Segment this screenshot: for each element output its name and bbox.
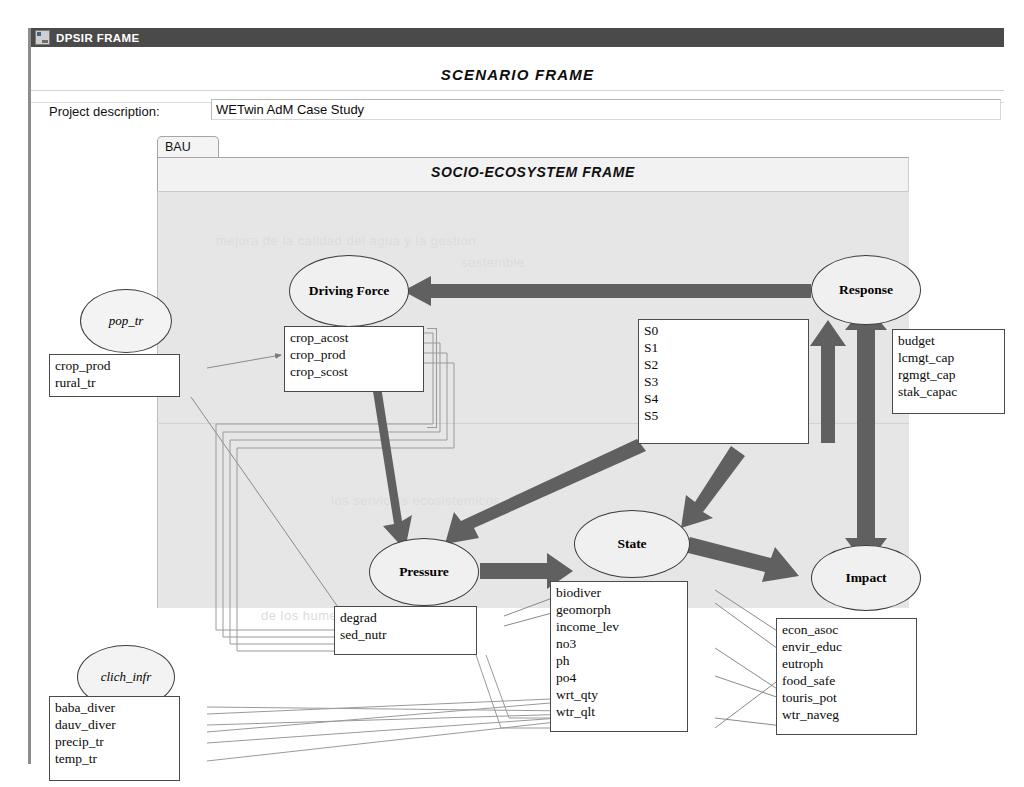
varbox-item[interactable]: po4 <box>556 669 687 686</box>
scenario-frame-title: SCENARIO FRAME <box>31 66 1004 83</box>
node-driving-force[interactable]: Driving Force <box>289 255 409 327</box>
node-pop-tr[interactable]: pop_tr <box>80 289 172 353</box>
varbox-item[interactable]: eutroph <box>782 655 916 672</box>
varbox-item[interactable]: stak_capac <box>898 383 1004 400</box>
varbox-item[interactable]: wtr_qlt <box>556 703 687 720</box>
project-description-label: Project description: <box>49 104 160 119</box>
varbox-item[interactable]: S4 <box>644 390 808 407</box>
varbox-item[interactable]: S3 <box>644 373 808 390</box>
varbox-item[interactable]: degrad <box>340 609 476 626</box>
varbox-item[interactable]: no3 <box>556 635 687 652</box>
varbox-item[interactable]: budget <box>898 332 1004 349</box>
varbox-item[interactable]: S5 <box>644 407 808 424</box>
node-pressure-label: Pressure <box>399 564 449 580</box>
stack-outline-1 <box>427 328 437 428</box>
node-driving-force-label: Driving Force <box>309 283 389 299</box>
box-clich-infr-variables[interactable]: baba_diver dauv_diver precip_tr temp_tr <box>49 696 180 781</box>
application-window: DPSIR FRAME SCENARIO FRAME Project descr… <box>28 28 1001 764</box>
varbox-item[interactable]: touris_pot <box>782 689 916 706</box>
node-response[interactable]: Response <box>811 255 921 325</box>
varbox-item[interactable]: baba_diver <box>55 699 179 716</box>
box-driving-force-variables[interactable]: crop_acost crop_prod crop_scost <box>284 326 424 392</box>
varbox-item[interactable]: ph <box>556 652 687 669</box>
varbox-item[interactable]: wtr_naveg <box>782 706 916 723</box>
varbox-item[interactable]: food_safe <box>782 672 916 689</box>
node-state-label: State <box>617 536 646 552</box>
clich-infr-to-state-lines <box>207 698 574 761</box>
node-impact[interactable]: Impact <box>811 545 921 611</box>
varbox-item[interactable]: envir_educ <box>782 638 916 655</box>
box-scenario-list[interactable]: S0 S1 S2 S3 S4 S5 <box>638 319 809 444</box>
varbox-item[interactable]: rural_tr <box>55 374 179 391</box>
box-pressure-variables[interactable]: degrad sed_nutr <box>334 606 477 655</box>
varbox-item[interactable]: crop_prod <box>55 357 179 374</box>
varbox-item[interactable]: geomorph <box>556 601 687 618</box>
varbox-item[interactable]: lcmgt_cap <box>898 349 1004 366</box>
box-impact-variables[interactable]: econ_asoc envir_educ eutroph food_safe t… <box>776 618 917 735</box>
varbox-item[interactable]: dauv_diver <box>55 716 179 733</box>
node-pressure[interactable]: Pressure <box>369 538 479 606</box>
app-icon <box>35 30 50 45</box>
varbox-item[interactable]: S2 <box>644 356 808 373</box>
varbox-item[interactable]: econ_asoc <box>782 621 916 638</box>
node-state[interactable]: State <box>574 510 690 578</box>
varbox-item[interactable]: precip_tr <box>55 733 179 750</box>
tab-bau[interactable]: BAU <box>157 136 219 158</box>
screenshot-root: DPSIR FRAME SCENARIO FRAME Project descr… <box>0 0 1024 787</box>
node-clich-infr-label: clich_infr <box>101 669 152 685</box>
varbox-item[interactable]: S1 <box>644 339 808 356</box>
window-title: DPSIR FRAME <box>56 32 140 44</box>
varbox-item[interactable]: wrt_qty <box>556 686 687 703</box>
box-pop-tr-variables[interactable]: crop_prod rural_tr <box>49 354 180 397</box>
socio-ecosystem-frame-title: SOCIO-ECOSYSTEM FRAME <box>157 164 909 180</box>
node-pop-tr-label: pop_tr <box>109 313 144 329</box>
varbox-item[interactable]: income_lev <box>556 618 687 635</box>
varbox-item[interactable]: rgmgt_cap <box>898 366 1004 383</box>
varbox-item[interactable]: crop_scost <box>290 363 423 380</box>
node-response-label: Response <box>839 282 893 298</box>
varbox-item[interactable]: biodiver <box>556 584 687 601</box>
varbox-item[interactable]: crop_acost <box>290 329 423 346</box>
varbox-item[interactable]: sed_nutr <box>340 626 476 643</box>
varbox-item[interactable]: S0 <box>644 322 808 339</box>
varbox-item[interactable]: temp_tr <box>55 750 179 767</box>
box-response-variables[interactable]: budget lcmgt_cap rgmgt_cap stak_capac <box>892 329 1005 414</box>
varbox-item[interactable]: crop_prod <box>290 346 423 363</box>
window-titlebar[interactable]: DPSIR FRAME <box>31 28 1004 47</box>
box-state-variables[interactable]: biodiver geomorph income_lev no3 ph po4 … <box>550 581 688 732</box>
project-description-input[interactable]: WETwin AdM Case Study <box>211 99 1001 120</box>
node-impact-label: Impact <box>845 570 886 586</box>
divider-top <box>31 90 1004 91</box>
